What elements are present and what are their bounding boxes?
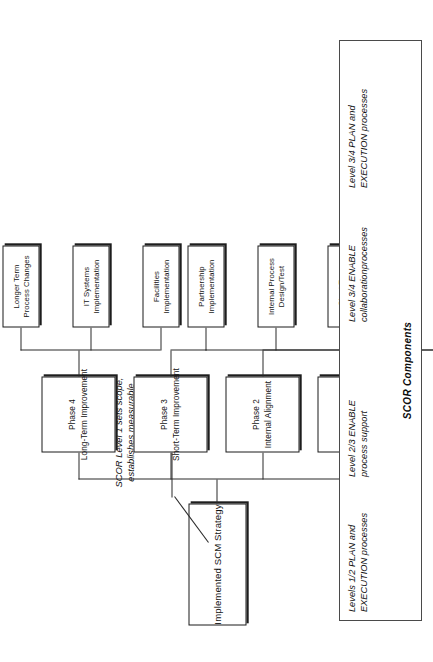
legend-title-scor-components: SCOR Components: [402, 316, 413, 426]
legend-layer: Levels 1/2 PLAN and EXECUTION processes …: [0, 0, 433, 662]
diagram-canvas: Implemented SCM Strategy SCOR Level 1 se…: [0, 0, 433, 662]
legend-item-level-2-3: Level 2/3 ENABLE process support: [346, 317, 370, 477]
legend-item-level-3-4-plan: Level 3/4 PLAN and EXECUTION processes: [346, 28, 370, 188]
